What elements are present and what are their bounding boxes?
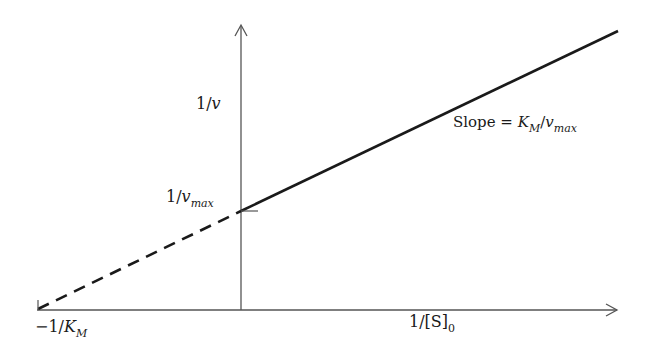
y-intercept-main: 1/ — [166, 187, 182, 206]
y-axis-label-main: 1/ — [196, 94, 212, 113]
y-intercept-label: 1/vmax — [166, 189, 214, 205]
x-intercept-label: −1/KM — [35, 319, 87, 335]
x-intercept-var: K — [64, 317, 76, 336]
slope-sub2: max — [554, 122, 577, 135]
x-axis-label-main: 1/[S] — [409, 312, 448, 331]
y-axis-label: 1/v — [196, 96, 221, 112]
x-axis-label: 1/[S]0 — [409, 314, 455, 330]
slope-var1: K — [518, 113, 529, 131]
plot-canvas — [0, 0, 647, 363]
y-intercept-var: v — [182, 187, 191, 206]
slope-prefix: Slope = — [453, 113, 518, 131]
x-axis-label-sub: 0 — [448, 322, 455, 335]
y-axis-label-var: v — [212, 94, 221, 113]
slope-annotation: Slope = KM/vmax — [453, 115, 577, 130]
slope-sub1: M — [529, 122, 540, 135]
slope-var2: v — [545, 113, 553, 131]
x-intercept-main: −1/ — [35, 317, 64, 336]
x-intercept-sub: M — [76, 327, 87, 340]
y-intercept-sub: max — [191, 197, 214, 210]
extrapolation-line — [38, 211, 241, 309]
